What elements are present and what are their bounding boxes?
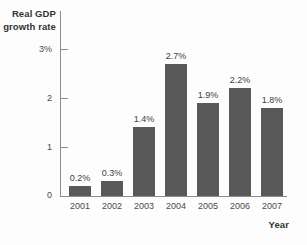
y-tick-label-1: 1 xyxy=(8,143,52,152)
x-tick-label-2007: 2007 xyxy=(252,201,292,211)
y-tick-label-3: 3% xyxy=(8,45,52,54)
scan-artifact xyxy=(2,232,72,238)
x-axis-title: Year xyxy=(269,219,289,230)
y-axis-title-line-2: growth rate xyxy=(0,21,56,34)
y-axis-title: Real GDP growth rate xyxy=(0,8,56,33)
bar-value-label-2003: 1.4% xyxy=(124,115,164,124)
bar-2006 xyxy=(229,88,251,196)
bar-chart-figure: Real GDP growth rate 3% 2 1 0 0.2%20010.… xyxy=(0,0,307,245)
y-tick-mark-2 xyxy=(61,98,68,99)
bar-value-label-2004: 2.7% xyxy=(156,52,196,61)
y-tick-mark-1 xyxy=(61,147,68,148)
bar-2007 xyxy=(261,108,283,196)
bar-2003 xyxy=(133,127,155,196)
y-tick-label-2: 2 xyxy=(8,94,52,103)
bar-2005 xyxy=(197,103,219,196)
bar-value-label-2006: 2.2% xyxy=(220,76,260,85)
bar-2004 xyxy=(165,64,187,196)
bar-2001 xyxy=(69,186,91,196)
bar-2002 xyxy=(101,181,123,196)
y-axis-title-line-1: Real GDP xyxy=(0,8,56,21)
bar-value-label-2005: 1.9% xyxy=(188,91,228,100)
y-tick-mark-3 xyxy=(61,49,68,50)
bar-value-label-2007: 1.8% xyxy=(252,96,292,105)
bar-value-label-2002: 0.3% xyxy=(92,169,132,178)
y-tick-label-0: 0 xyxy=(8,191,52,200)
y-axis-line xyxy=(60,11,61,197)
x-axis-line xyxy=(60,196,287,197)
